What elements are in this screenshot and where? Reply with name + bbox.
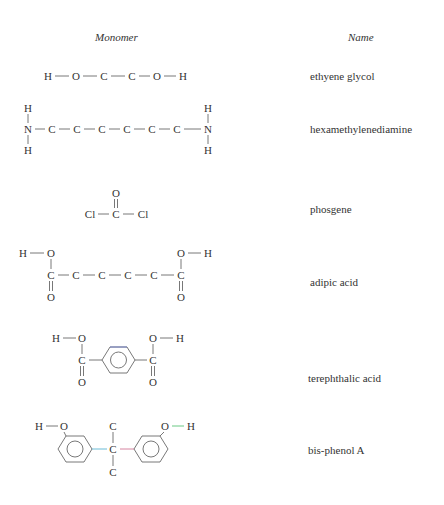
atom-h: H (35, 420, 43, 432)
atom-h: H (204, 247, 212, 259)
aromatic-ring-circle (111, 352, 127, 368)
atom-h: H (19, 247, 27, 259)
aromatic-ring-circle (143, 441, 159, 457)
atom-c: C (128, 70, 135, 82)
bisphenol-a-structure: H O C C C O H (0, 418, 230, 498)
monomer-name: phosgene (310, 203, 352, 215)
atom-n: N (204, 123, 212, 135)
atom-c: C (150, 269, 157, 281)
atom-o: O (161, 420, 169, 432)
atom-o: O (60, 420, 68, 432)
atom-cl: Cl (138, 208, 148, 220)
atom-cl: Cl (85, 208, 95, 220)
atom-o: O (78, 332, 86, 344)
atom-o: O (78, 376, 86, 388)
atom-o: O (47, 247, 55, 259)
atom-c: C (72, 269, 79, 281)
atom-o: O (149, 332, 157, 344)
atom-h: H (204, 102, 212, 114)
atom-c: C (98, 123, 105, 135)
bond (64, 432, 66, 436)
atom-h: H (179, 70, 187, 82)
atom-c: C (48, 123, 55, 135)
atom-h: H (24, 144, 32, 156)
atom-h: H (24, 102, 32, 114)
monomer-name: hexamethylenediamine (310, 123, 412, 135)
name-column-header: Name (348, 31, 374, 43)
monomer-name: bis-phenol A (308, 444, 365, 456)
monomer-column-header: Monomer (95, 31, 138, 43)
atom-c: C (177, 269, 184, 281)
terephthalic-acid-structure: H O C O C O H O (0, 330, 230, 410)
monomer-name: ethyene glycol (310, 70, 374, 82)
atom-h: H (187, 420, 195, 432)
atom-o: O (177, 291, 185, 303)
atom-c: C (148, 123, 155, 135)
benzene-ring-left (58, 436, 92, 462)
atom-c: C (112, 208, 119, 220)
atom-c: C (109, 466, 116, 478)
atom-c: C (109, 420, 116, 432)
atom-c: C (149, 354, 156, 366)
atom-c: C (123, 123, 130, 135)
atom-c: C (98, 269, 105, 281)
atom-o: O (153, 70, 161, 82)
atom-c: C (47, 269, 54, 281)
atom-c: C (78, 354, 85, 366)
monomer-name: terephthalic acid (308, 372, 381, 384)
aromatic-ring-circle (67, 441, 83, 457)
atom-c: C (73, 123, 80, 135)
atom-o: O (112, 187, 120, 199)
phosgene-structure: O C Cl Cl (0, 185, 200, 230)
atom-c: C (173, 123, 180, 135)
atom-h: H (52, 332, 60, 344)
adipic-acid-structure: H O C O C C C C C O H O (0, 244, 230, 314)
atom-o: O (72, 70, 80, 82)
atom-o: O (47, 291, 55, 303)
atom-c: C (109, 443, 116, 455)
ethylene-glycol-structure: H O C C O H (0, 66, 200, 86)
hexamethylenediamine-structure: H N H C C C C C C H N H (0, 100, 230, 160)
atom-h: H (204, 144, 212, 156)
benzene-ring-right (134, 436, 168, 462)
benzene-ring (102, 347, 135, 373)
atom-c: C (124, 269, 131, 281)
atom-h: H (176, 332, 184, 344)
atom-c: C (100, 70, 107, 82)
monomer-name: adipic acid (310, 276, 358, 288)
bond (160, 432, 164, 436)
atom-h: H (44, 70, 52, 82)
atom-o: O (177, 247, 185, 259)
atom-n: N (24, 123, 32, 135)
atom-o: O (149, 376, 157, 388)
